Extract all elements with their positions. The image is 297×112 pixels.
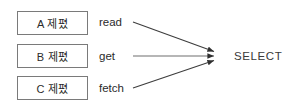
product-box-b[interactable]: B 제폈 [17,44,88,68]
operation-label-get: get [99,51,115,63]
product-label-c: C 제폈 [36,80,68,96]
operation-label-fetch: fetch [99,83,124,95]
product-box-a[interactable]: A 제폈 [17,11,88,35]
edge-fetch-to-select [133,61,214,89]
diagram-canvas: A 제폈 B 제폈 C 제폈 read get fetch SELECT [0,0,297,112]
product-box-c[interactable]: C 제폈 [17,76,88,100]
target-label-select: SELECT [234,51,282,63]
operation-label-read: read [99,17,122,29]
edge-read-to-select [133,22,214,52]
product-label-b: B 제폈 [37,48,69,64]
product-label-a: A 제폈 [37,15,68,31]
